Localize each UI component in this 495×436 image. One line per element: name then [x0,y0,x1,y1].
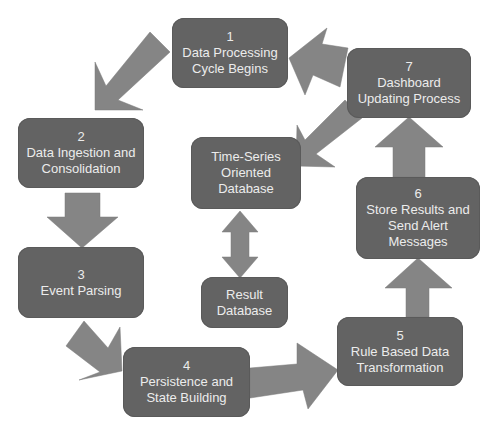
database-label: Time-Series Oriented Database [211,149,281,197]
step-2-box: 2 Data Ingestion and Consolidation [18,118,144,188]
arrow-4-to-5 [250,343,338,409]
arrow-3-to-4 [66,321,122,380]
step-7-box: 7 Dashboard Updating Process [347,48,471,118]
step-6-box: 6 Store Results and Send Alert Messages [356,177,480,259]
step-label: Data Processing Cycle Begins [182,45,277,77]
database-label: Result Database [217,287,273,319]
step-number: 3 [77,267,84,283]
step-4-box: 4 Persistence and State Building [123,347,250,417]
step-label: Dashboard Updating Process [358,75,461,107]
step-1-box: 1 Data Processing Cycle Begins [172,18,288,88]
step-number: 7 [405,59,412,75]
step-number: 1 [226,29,233,45]
step-number: 6 [414,186,421,202]
step-label: Rule Based Data Transformation [351,344,449,376]
arrow-5-to-6 [385,258,452,317]
result-database-box: Result Database [201,277,288,328]
step-3-box: 3 Event Parsing [18,247,144,318]
step-label: Data Ingestion and Consolidation [26,145,135,177]
arrow-6-to-7 [375,117,443,177]
arrow-2-to-3 [47,193,118,248]
step-number: 2 [77,129,84,145]
step-5-box: 5 Rule Based Data Transformation [337,317,463,386]
step-number: 5 [396,328,403,344]
step-number: 4 [183,358,190,374]
timeseries-database-box: Time-Series Oriented Database [191,137,301,209]
step-label: Persistence and State Building [140,374,233,406]
arrow-1-to-2 [95,32,170,110]
step-label: Event Parsing [41,283,122,299]
arrow-timeseries-result [222,211,258,278]
arrow-7-to-1 [289,28,348,95]
step-label: Store Results and Send Alert Messages [366,202,469,250]
